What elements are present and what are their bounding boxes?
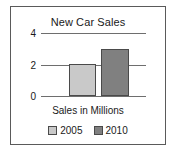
plot-area: 4 2 0 xyxy=(41,33,146,97)
legend-swatch-2005 xyxy=(48,126,57,135)
gridline-0: 0 xyxy=(41,96,146,97)
chart-frame: New Car Sales 4 2 0 Sales in Millions 20… xyxy=(10,6,166,145)
y-axis-tick-2: 2 xyxy=(30,65,36,66)
legend-item-2010: 2010 xyxy=(94,125,128,136)
y-axis-tick-0: 0 xyxy=(30,96,36,97)
chart-title: New Car Sales xyxy=(11,16,165,28)
y-axis-tick-4: 4 xyxy=(30,33,36,34)
legend-item-2005: 2005 xyxy=(48,125,82,136)
legend-swatch-2010 xyxy=(94,126,103,135)
legend-label-2010: 2010 xyxy=(106,125,128,136)
legend-label-2005: 2005 xyxy=(60,125,82,136)
bar-2005 xyxy=(69,64,96,96)
bar-2010 xyxy=(101,49,129,96)
gridline-4: 4 xyxy=(41,33,146,34)
chart-legend: 2005 2010 xyxy=(11,125,165,136)
x-axis-label: Sales in Millions xyxy=(11,105,165,116)
